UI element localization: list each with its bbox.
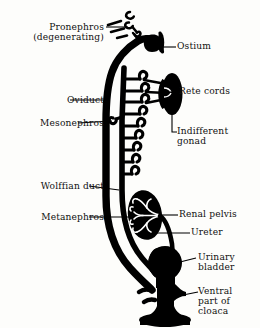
label-ostium: Ostium bbox=[177, 41, 257, 51]
label-ureter: Ureter bbox=[191, 227, 259, 237]
label-indifferent-gonad: Indifferent gonad bbox=[177, 126, 259, 146]
label-ventral-cloaca: Ventral part of cloaca bbox=[198, 286, 258, 317]
mesonephric-tubules bbox=[109, 71, 149, 174]
label-urinary-bladder: Urinary bladder bbox=[198, 252, 258, 272]
ventral-part-of-cloaca bbox=[139, 284, 191, 327]
label-rete-cords: Rete cords bbox=[179, 86, 259, 96]
leader-urinary-bladder bbox=[180, 258, 196, 262]
label-wolffian-duct: Wolffian duct bbox=[12, 181, 104, 191]
pronephros-degenerating-fragments bbox=[108, 12, 140, 39]
label-renal-pelvis: Renal pelvis bbox=[179, 209, 259, 219]
anatomical-diagram: Pronephros (degenerating) Oviduct Mesone… bbox=[0, 0, 260, 328]
label-mesonephros: Mesonephros bbox=[9, 118, 104, 128]
label-pronephros: Pronephros (degenerating) bbox=[14, 22, 104, 42]
urinary-bladder bbox=[148, 246, 182, 288]
label-metanephros: Metanephros bbox=[14, 212, 104, 222]
label-oviduct: Oviduct bbox=[38, 95, 104, 105]
